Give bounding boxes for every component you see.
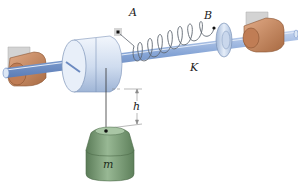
- label-k: K: [190, 62, 198, 73]
- drum: [62, 36, 122, 92]
- label-h: h: [133, 101, 140, 112]
- mechanism-drawing: [0, 0, 298, 191]
- label-m: m: [103, 159, 113, 170]
- mass-m: [86, 127, 134, 181]
- collar-b: [212, 23, 232, 57]
- label-a: A: [129, 7, 137, 18]
- diagram: A B K h m: [0, 0, 298, 191]
- label-b: B: [204, 10, 212, 21]
